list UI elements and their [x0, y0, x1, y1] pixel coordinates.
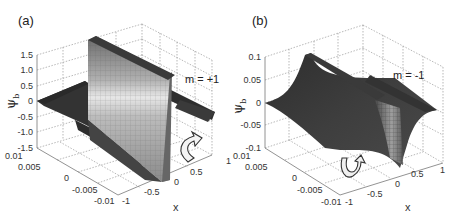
plot-b-canvas	[225, 0, 450, 223]
panel-b-title: (b)	[252, 14, 268, 27]
x-tick: 0	[395, 180, 400, 189]
z-tick: 0	[8, 97, 33, 106]
x-tick: -1	[122, 197, 130, 206]
y-tick: 0	[64, 174, 69, 183]
z-tick: 0.5	[8, 82, 33, 91]
x-tick: 0.5	[190, 168, 203, 177]
y-tick: -0.01	[321, 198, 342, 207]
y-tick: -0.005	[297, 186, 323, 195]
x-tick: -0.5	[367, 190, 383, 199]
z-tick: 0	[233, 99, 261, 108]
y-tick: 0.005	[245, 163, 268, 172]
z-tick: -0.5	[8, 113, 33, 122]
panel-a: (a) m = +1 ψb 1.5 1.0 0.5 0 -0.5 -1.0 -1…	[0, 0, 225, 223]
panel-a-xlabel: x	[173, 202, 179, 213]
z-tick: 1.0	[8, 66, 33, 75]
x-tick: 0.5	[411, 170, 424, 179]
x-tick: -1	[345, 198, 353, 207]
plot-a-canvas	[0, 0, 225, 223]
y-tick: -0.005	[72, 186, 98, 195]
rotation-arrow-b-icon	[341, 155, 365, 177]
x-tick: 0	[174, 178, 179, 187]
y-tick: -0.01	[94, 197, 115, 206]
panel-a-title: (a)	[18, 14, 34, 27]
panel-b-xlabel: x	[405, 202, 411, 213]
panel-b: (b) m = -1 ψb 0.1 0.05 0 -0.05 -0.1 0.01…	[225, 0, 450, 223]
z-tick: -1.0	[8, 128, 33, 137]
z-tick: -0.05	[233, 121, 261, 130]
y-tick: 0	[292, 174, 297, 183]
z-tick: 0.1	[233, 53, 261, 62]
y-tick: 0.005	[18, 163, 41, 172]
y-tick: 0.01	[5, 152, 23, 161]
x-tick: -0.5	[144, 188, 160, 197]
x-tick: 1	[440, 166, 445, 175]
z-tick: 1.5	[8, 51, 33, 60]
rotation-arrow-a-icon	[181, 132, 202, 162]
panel-b-annotation: m = -1	[393, 70, 424, 81]
panel-a-annotation: m = +1	[185, 74, 219, 85]
z-tick: 0.05	[233, 76, 261, 85]
y-tick: 0.01	[233, 152, 251, 161]
